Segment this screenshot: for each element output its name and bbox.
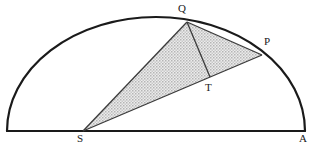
vertex-label-q: Q xyxy=(178,3,186,14)
vertex-label-p: P xyxy=(264,36,270,47)
shaded-triangle-region xyxy=(83,22,262,131)
figure-canvas xyxy=(0,0,316,151)
vertex-label-s: S xyxy=(77,133,83,144)
vertex-label-t: T xyxy=(205,82,212,93)
vertex-label-a: A xyxy=(299,133,307,144)
geometry-figure: Q P T S A xyxy=(0,0,316,151)
